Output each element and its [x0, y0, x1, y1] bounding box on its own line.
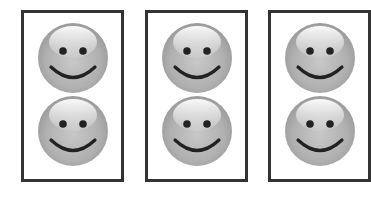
- smiley-face-icon: [37, 22, 109, 94]
- card-1: [21, 10, 124, 182]
- smiley-face-icon: [161, 22, 233, 94]
- card-2: [145, 10, 248, 182]
- smiley-face-icon: [284, 95, 356, 167]
- card-3: [268, 10, 371, 182]
- smiley-face-icon: [37, 95, 109, 167]
- smiley-face-icon: [161, 95, 233, 167]
- smiley-face-icon: [284, 22, 356, 94]
